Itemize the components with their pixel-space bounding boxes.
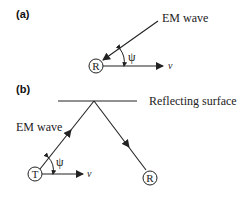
angle-label: ψ [56,155,64,169]
receiver-label: R [146,172,154,184]
panel-b-label: (b) [16,83,30,95]
panel-a-label: (a) [16,8,30,20]
angle-arc [48,157,53,174]
receiver-label: R [92,60,100,72]
angle-label: ψ [128,50,136,64]
reflected-ray [94,101,146,170]
em-wave-label: EM wave [162,11,208,25]
reflecting-surface-label: Reflecting surface [149,94,237,108]
diagram: (a) EM wave R v ψ (b) Reflecting surface… [0,0,244,197]
angle-arc [120,49,124,66]
velocity-label: v [168,60,173,71]
transmitter-label: T [32,168,39,180]
velocity-label: v [87,168,92,179]
panel-a: (a) EM wave R v ψ [16,8,208,73]
em-wave-label: EM wave [16,120,62,134]
incident-ray [40,101,94,169]
panel-b: (b) Reflecting surface EM wave T R v ψ [16,83,237,185]
